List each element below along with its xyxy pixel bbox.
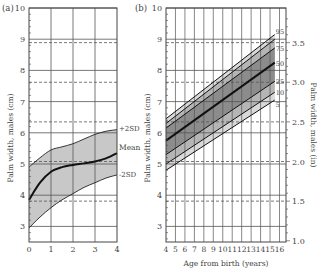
chart-canvas: 34567891001234 3456789101.01.52.02.53.03… (0, 0, 317, 274)
x-tick-label: 11 (227, 245, 237, 254)
x-tick-label: 5 (173, 245, 178, 254)
y-tick-label: 4 (20, 191, 25, 200)
x-tick-label: 2 (70, 245, 75, 254)
y-tick-label: 3 (20, 222, 25, 231)
x-tick-label: 10 (218, 245, 228, 254)
percentile-label-75: 75 (276, 45, 284, 53)
y-tick-label: 8 (157, 66, 162, 75)
panel-b-xlabel: Age from birth (years) (183, 259, 269, 268)
x-tick-label: 4 (164, 245, 169, 254)
y-tick-label: 10 (15, 4, 25, 13)
percentile-label-5: 5 (276, 101, 280, 109)
percentile-label-10: 10 (276, 89, 284, 97)
x-tick-label: 15 (265, 245, 275, 254)
y-right-tick-label: 3.5 (292, 39, 305, 48)
x-tick-label: 7 (192, 245, 197, 254)
y-right-tick-label: 1.5 (292, 197, 305, 206)
x-tick-label: 13 (246, 245, 256, 254)
panel-a-ylabel: Palm width, males (cm) (6, 93, 15, 182)
percentile-label-95: 95 (276, 28, 284, 36)
x-tick-label: 3 (92, 245, 97, 254)
y-tick-label: 9 (157, 35, 162, 44)
y-tick-label: 10 (152, 4, 162, 13)
panel-b-ylabel: Palm width, males (cm) (143, 93, 152, 182)
x-tick-label: 0 (26, 245, 31, 254)
x-tick-label: 14 (256, 245, 266, 254)
x-tick-label: 9 (211, 245, 216, 254)
label-plus-2sd: +2SD (119, 125, 140, 133)
y-tick-label: 7 (157, 98, 162, 107)
y-right-tick-label: 2.0 (292, 158, 305, 167)
y-tick-label: 5 (20, 160, 25, 169)
y-tick-label: 8 (20, 66, 25, 75)
y-tick-label: 3 (157, 222, 162, 231)
percentile-label-25: 25 (276, 78, 284, 86)
y-right-tick-label: 3.0 (292, 78, 305, 87)
x-tick-label: 6 (183, 245, 188, 254)
x-tick-label: 1 (48, 245, 53, 254)
y-right-tick-label: 1.0 (292, 237, 305, 246)
y-tick-label: 7 (20, 98, 25, 107)
panel-b-label: (b) (135, 3, 147, 13)
x-tick-label: 4 (114, 245, 119, 254)
percentile-label-50: 50 (276, 60, 284, 68)
y-tick-label: 6 (20, 129, 25, 138)
label-mean: Mean (119, 143, 141, 152)
x-tick-label: 8 (201, 245, 206, 254)
label-minus-2sd: -2SD (119, 171, 137, 179)
x-tick-label: 12 (237, 245, 247, 254)
y-tick-label: 9 (20, 35, 25, 44)
y-tick-label: 5 (157, 160, 162, 169)
y-tick-label: 6 (157, 129, 162, 138)
panel-a-label: (a) (2, 3, 14, 13)
panel-b-ylabel-right: Palm width, males (in) (309, 82, 317, 167)
x-tick-label: 16 (275, 245, 285, 254)
y-right-tick-label: 2.5 (292, 118, 305, 127)
y-tick-label: 4 (157, 191, 162, 200)
